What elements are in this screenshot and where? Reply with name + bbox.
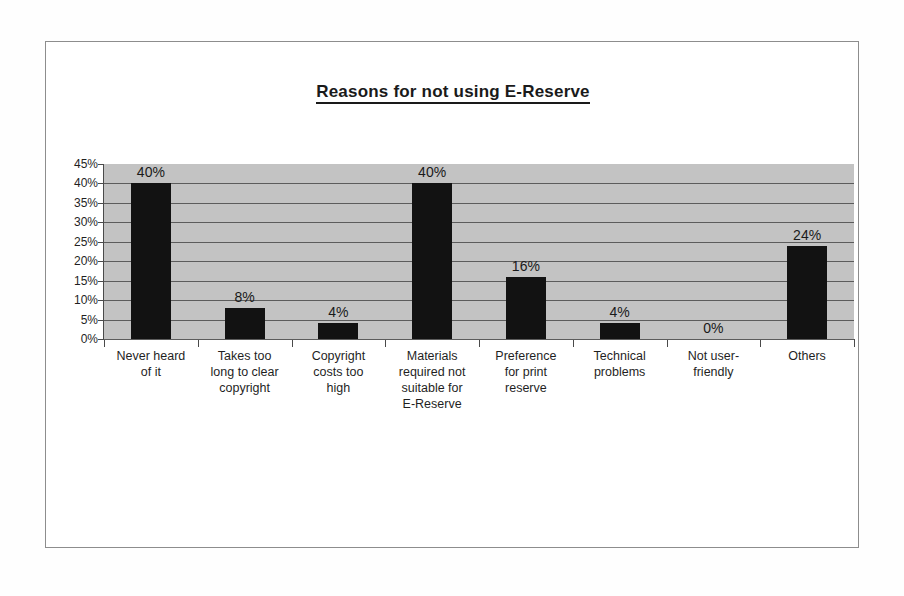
y-tick-mark xyxy=(98,183,104,184)
x-axis-category-label: Never heardof it xyxy=(98,348,204,380)
y-axis-tick-label: 10% xyxy=(54,294,98,306)
y-axis-tick-label: 0% xyxy=(54,333,98,345)
gridline xyxy=(104,281,854,282)
x-axis-category-label-line: Others xyxy=(754,348,860,364)
x-axis-category-label-line: Materials xyxy=(379,348,485,364)
x-tick-mark xyxy=(573,340,574,347)
x-axis-category-label-line: friendly xyxy=(661,364,767,380)
gridline xyxy=(104,183,854,184)
bar-value-label: 0% xyxy=(667,321,761,335)
x-axis-category-label-line: problems xyxy=(567,364,673,380)
x-axis-category-label-line: high xyxy=(286,380,392,396)
bar[interactable] xyxy=(318,323,358,339)
y-tick-mark xyxy=(98,281,104,282)
x-tick-mark xyxy=(854,340,855,347)
x-tick-mark xyxy=(198,340,199,347)
chart-outer-frame: Reasons for not using E-Reserve 45%40%35… xyxy=(45,41,859,548)
gridline xyxy=(104,203,854,204)
y-tick-mark xyxy=(98,261,104,262)
x-axis-category-label-line: suitable for xyxy=(379,380,485,396)
bar-value-label: 4% xyxy=(292,305,386,319)
bar-value-label: 4% xyxy=(573,305,667,319)
x-axis-category-label: Materialsrequired notsuitable forE-Reser… xyxy=(379,348,485,412)
y-axis-tick-label: 25% xyxy=(54,236,98,248)
chart-title: Reasons for not using E-Reserve xyxy=(46,82,860,102)
x-axis-category-label-line: costs too xyxy=(286,364,392,380)
bar[interactable] xyxy=(506,277,546,339)
plot-area xyxy=(104,164,854,339)
x-axis-category-label-line: Never heard xyxy=(98,348,204,364)
x-tick-mark xyxy=(479,340,480,347)
x-axis-category-label: Preferencefor printreserve xyxy=(473,348,579,396)
y-tick-mark xyxy=(98,300,104,301)
bar-value-label: 40% xyxy=(104,165,198,179)
x-axis-category-label-line: Not user- xyxy=(661,348,767,364)
bar[interactable] xyxy=(412,183,452,339)
y-axis-tick-label: 15% xyxy=(54,275,98,287)
y-axis-tick-label: 45% xyxy=(54,158,98,170)
chart-title-text: Reasons for not using E-Reserve xyxy=(316,82,590,104)
x-axis-category-label: Technicalproblems xyxy=(567,348,673,380)
gridline xyxy=(104,222,854,223)
x-axis-category-label: Not user-friendly xyxy=(661,348,767,380)
x-tick-mark xyxy=(104,340,105,347)
x-axis-category-label-line: for print xyxy=(473,364,579,380)
y-tick-mark xyxy=(98,320,104,321)
y-axis-tick-label: 20% xyxy=(54,255,98,267)
bar[interactable] xyxy=(225,308,265,339)
x-axis-category-label-line: Copyright xyxy=(286,348,392,364)
bar[interactable] xyxy=(787,246,827,339)
gridline xyxy=(104,242,854,243)
y-axis-tick-label: 40% xyxy=(54,177,98,189)
x-axis-category-label-line: copyright xyxy=(192,380,298,396)
scanned-page: Reasons for not using E-Reserve 45%40%35… xyxy=(0,0,904,596)
x-axis-category-label: Copyrightcosts toohigh xyxy=(286,348,392,396)
y-tick-mark xyxy=(98,242,104,243)
x-axis-category-label: Takes toolong to clearcopyright xyxy=(192,348,298,396)
y-axis-tick-label: 30% xyxy=(54,216,98,228)
bar-value-label: 40% xyxy=(385,165,479,179)
x-tick-mark xyxy=(385,340,386,347)
bar-value-label: 16% xyxy=(479,259,573,273)
bar-value-label: 24% xyxy=(760,228,854,242)
bar[interactable] xyxy=(600,323,640,339)
x-axis-category-label-line: long to clear xyxy=(192,364,298,380)
y-tick-mark xyxy=(98,222,104,223)
x-axis-category-label-line: Takes too xyxy=(192,348,298,364)
x-tick-mark xyxy=(760,340,761,347)
x-axis-category-label-line: of it xyxy=(98,364,204,380)
x-axis-category-label-line: required not xyxy=(379,364,485,380)
y-axis-labels: 45%40%35%30%25%20%15%10%5%0% xyxy=(50,164,98,340)
x-axis-category-label-line: E-Reserve xyxy=(379,396,485,412)
x-axis-category-label-line: reserve xyxy=(473,380,579,396)
x-tick-mark xyxy=(667,340,668,347)
x-axis-category-label-line: Preference xyxy=(473,348,579,364)
y-tick-mark xyxy=(98,203,104,204)
x-axis-category-label-line: Technical xyxy=(567,348,673,364)
x-tick-mark xyxy=(292,340,293,347)
x-axis-category-label: Others xyxy=(754,348,860,364)
y-axis-tick-label: 5% xyxy=(54,314,98,326)
bar-value-label: 8% xyxy=(198,290,292,304)
bar[interactable] xyxy=(131,183,171,339)
y-axis-tick-label: 35% xyxy=(54,197,98,209)
